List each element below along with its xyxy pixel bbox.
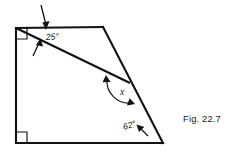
geometry-diagram: 25° x 62° xyxy=(0,0,234,156)
angle-x-label: x xyxy=(119,86,125,97)
angle-25-label: 25° xyxy=(44,31,59,42)
figure-container: 25° x 62° Fig. 22.7 xyxy=(0,0,234,156)
right-angle-mark-bottom-left xyxy=(16,132,27,143)
angle-x-arrowhead-start xyxy=(103,75,111,82)
angle-62-annotation: 62° xyxy=(122,118,148,136)
angle-62-label: 62° xyxy=(122,118,138,132)
angle-x-arrowhead-end xyxy=(127,98,135,105)
edge-top xyxy=(16,27,103,28)
figure-caption: Fig. 22.7 xyxy=(183,114,221,124)
right-angle-markers xyxy=(16,28,27,143)
